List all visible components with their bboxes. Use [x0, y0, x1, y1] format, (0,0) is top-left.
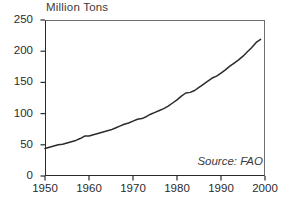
source-annotation: Source: FAO: [197, 155, 263, 167]
x-axis-tick-label: 1980: [155, 182, 199, 194]
x-axis-ticks: [45, 176, 265, 181]
chart-canvas: [0, 0, 301, 206]
data-series-line: [45, 39, 261, 148]
line-chart: Million Tons 050100150200250 19501960197…: [0, 0, 301, 206]
x-axis-tick-label: 1990: [199, 182, 243, 194]
x-axis-tick-label: 1950: [23, 182, 67, 194]
y-axis-ticks: [41, 20, 46, 176]
y-axis-tick-label: 150: [0, 75, 33, 87]
y-axis-tick-label: 0: [0, 169, 33, 181]
y-axis-tick-label: 200: [0, 44, 33, 56]
x-axis-tick-label: 2000: [243, 182, 287, 194]
x-axis-tick-label: 1970: [111, 182, 155, 194]
y-axis-tick-label: 250: [0, 13, 33, 25]
x-axis-tick-label: 1960: [67, 182, 111, 194]
y-axis-tick-label: 50: [0, 138, 33, 150]
y-axis-tick-label: 100: [0, 107, 33, 119]
